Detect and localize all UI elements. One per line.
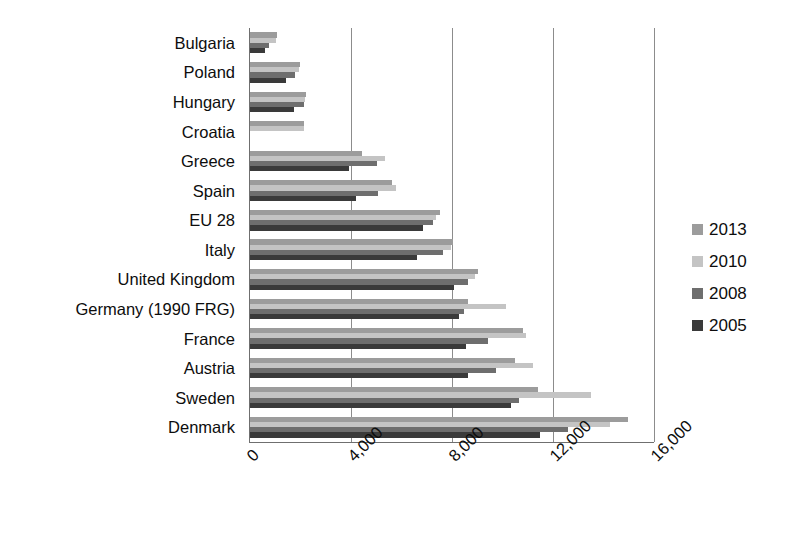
bar-group xyxy=(250,117,654,147)
bar-group xyxy=(250,176,654,206)
legend-label: 2005 xyxy=(709,317,747,334)
bar xyxy=(250,78,286,83)
bar-group xyxy=(250,353,654,383)
bar-group xyxy=(250,324,654,354)
legend-label: 2008 xyxy=(709,285,747,302)
bar-groups xyxy=(250,28,654,442)
category-label: Italy xyxy=(205,242,235,259)
bar xyxy=(250,403,511,408)
bar xyxy=(250,166,349,171)
category-label: Greece xyxy=(181,153,235,170)
category-label: Croatia xyxy=(182,124,235,141)
category-label: Germany (1990 FRG) xyxy=(75,301,235,318)
category-label: Austria xyxy=(184,360,235,377)
bar xyxy=(250,285,454,290)
category-label: Denmark xyxy=(168,419,235,436)
category-label: EU 28 xyxy=(189,212,235,229)
bar xyxy=(250,48,265,53)
bar-group xyxy=(250,87,654,117)
category-label: United Kingdom xyxy=(118,271,235,288)
legend-item: 2013 xyxy=(692,213,782,245)
category-label: Bulgaria xyxy=(174,35,235,52)
legend-swatch-icon xyxy=(692,320,703,331)
bar xyxy=(250,373,468,378)
bar xyxy=(250,196,356,201)
bar xyxy=(250,225,423,230)
bar-group xyxy=(250,146,654,176)
chart-legend: 2013201020082005 xyxy=(692,213,782,341)
legend-item: 2005 xyxy=(692,309,782,341)
legend-item: 2010 xyxy=(692,245,782,277)
value-tick-label: 0 xyxy=(243,446,263,466)
legend-swatch-icon xyxy=(692,288,703,299)
bar-group xyxy=(250,265,654,295)
bar xyxy=(250,255,417,260)
bar-group xyxy=(250,383,654,413)
category-label: Spain xyxy=(193,183,235,200)
legend-swatch-icon xyxy=(692,224,703,235)
bar xyxy=(250,432,540,437)
legend-label: 2013 xyxy=(709,221,747,238)
bar-chart: BulgariaPolandHungaryCroatiaGreeceSpainE… xyxy=(0,0,788,543)
legend-item: 2008 xyxy=(692,277,782,309)
category-label: Hungary xyxy=(173,94,235,111)
bar-group xyxy=(250,28,654,58)
bar-group xyxy=(250,235,654,265)
category-label: Sweden xyxy=(175,390,235,407)
plot-area xyxy=(249,28,654,443)
bar xyxy=(250,344,466,349)
bar xyxy=(250,126,304,131)
bar-group xyxy=(250,294,654,324)
bar-group xyxy=(250,205,654,235)
category-label: Poland xyxy=(184,64,235,81)
bar-group xyxy=(250,58,654,88)
category-label: France xyxy=(184,331,235,348)
gridline xyxy=(654,28,655,442)
legend-swatch-icon xyxy=(692,256,703,267)
bar xyxy=(250,314,459,319)
bar xyxy=(250,107,294,112)
category-axis-labels: BulgariaPolandHungaryCroatiaGreeceSpainE… xyxy=(0,28,243,442)
legend-label: 2010 xyxy=(709,253,747,270)
